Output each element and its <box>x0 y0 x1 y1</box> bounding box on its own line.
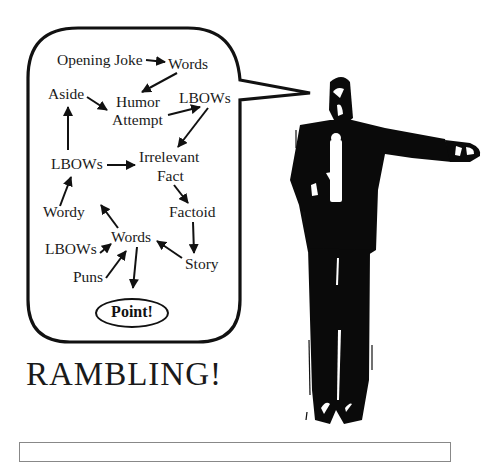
node-point: Point! <box>95 303 169 321</box>
node-story: Story <box>185 255 219 272</box>
node-lbows-mid: LBOWs <box>51 155 103 172</box>
node-wordy: Wordy <box>43 203 85 220</box>
node-fact: Fact <box>157 167 184 184</box>
node-lbows-low: LBOWs <box>45 240 97 257</box>
node-aside: Aside <box>48 85 84 102</box>
caption-box <box>19 442 451 462</box>
node-puns: Puns <box>73 268 103 285</box>
node-humor: Humor <box>116 93 160 110</box>
node-factoid: Factoid <box>169 203 216 220</box>
speech-bubble <box>28 28 310 342</box>
node-irrelevant: Irrelevant <box>139 148 199 165</box>
node-opening-joke: Opening Joke <box>57 51 143 68</box>
node-lbows-top: LBOWs <box>179 89 231 106</box>
cartoon-title: RAMBLING! <box>26 356 222 393</box>
man-pointing-silhouette <box>290 77 480 424</box>
node-attempt: Attempt <box>112 111 163 128</box>
node-words-top: Words <box>168 55 208 72</box>
node-words-mid: Words <box>111 228 151 245</box>
